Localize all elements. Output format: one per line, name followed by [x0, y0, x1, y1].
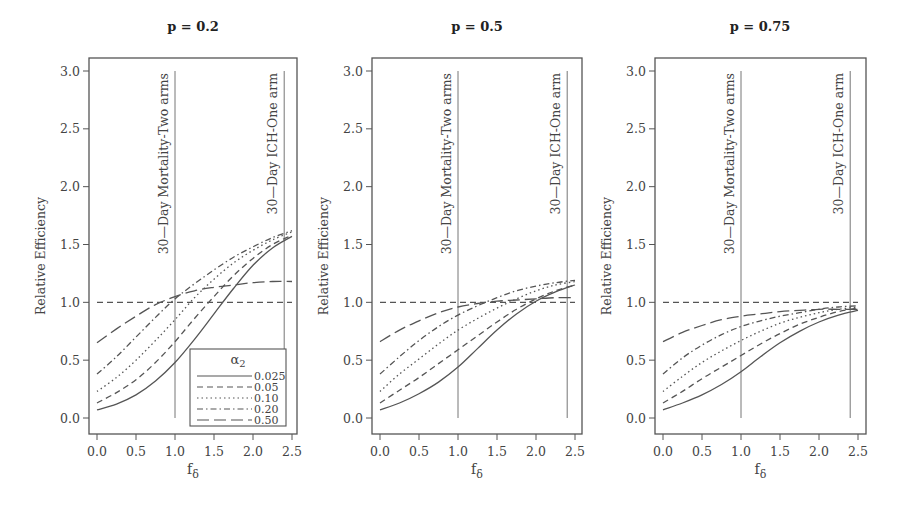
series-line-alpha-0.10: [663, 307, 858, 391]
y-tick-label: 0.0: [626, 411, 646, 426]
x-tick-label: 1.0: [731, 444, 751, 459]
y-tick-label: 1.5: [626, 237, 646, 252]
y-tick-label: 2.0: [343, 179, 363, 194]
ich-marker-label: 30—Day ICH-One arm: [548, 73, 563, 215]
series-line-alpha-0.05: [663, 308, 858, 403]
mortality-marker-label: 30—Day Mortality-Two arms: [439, 73, 454, 254]
mortality-marker-label: 30—Day Mortality-Two arms: [722, 73, 737, 254]
panel-1: 0.00.51.01.52.02.53.00.00.51.01.52.02.5f…: [316, 58, 585, 481]
series-line-alpha-0.20: [663, 306, 858, 374]
y-tick-label: 0.0: [60, 411, 80, 426]
y-tick-label: 1.0: [626, 295, 646, 310]
mortality-marker-label: 30—Day Mortality-Two arms: [156, 73, 171, 254]
y-tick-label: 2.5: [343, 121, 363, 136]
x-tick-label: 1.5: [770, 444, 790, 459]
x-tick-label: 0.0: [87, 444, 107, 459]
series-line-alpha-0.025: [663, 310, 858, 410]
x-axis-label: fδ: [471, 461, 483, 481]
x-tick-label: 0.5: [409, 444, 429, 459]
y-axis-label: Relative Efficiency: [599, 196, 614, 315]
y-tick-label: 2.5: [626, 121, 646, 136]
x-tick-label: 2.5: [848, 444, 868, 459]
x-tick-label: 1.5: [487, 444, 507, 459]
x-tick-label: 0.0: [653, 444, 673, 459]
panel-0: 0.00.51.01.52.02.53.00.00.51.01.52.02.5f…: [33, 58, 302, 481]
y-tick-label: 0.5: [343, 353, 363, 368]
x-tick-label: 0.5: [692, 444, 712, 459]
legend-entry-label: 0.50: [254, 414, 279, 427]
series-line-alpha-0.50: [380, 298, 575, 342]
y-tick-label: 2.0: [626, 179, 646, 194]
x-tick-label: 1.0: [165, 444, 185, 459]
ich-marker-label: 30—Day ICH-One arm: [831, 73, 846, 215]
x-axis-label: fδ: [755, 461, 767, 481]
y-tick-label: 1.5: [343, 237, 363, 252]
y-tick-label: 3.0: [60, 64, 80, 79]
plot-canvas: 0.00.51.01.52.02.53.00.00.51.01.52.02.5f…: [0, 0, 901, 510]
series-line-alpha-0.50: [97, 281, 292, 342]
y-tick-label: 1.0: [343, 295, 363, 310]
x-tick-label: 2.0: [809, 444, 829, 459]
y-tick-label: 0.5: [60, 353, 80, 368]
ich-marker-label: 30—Day ICH-One arm: [265, 73, 280, 215]
legend: α20.0250.050.100.200.50: [190, 349, 286, 427]
series-line-alpha-0.50: [663, 309, 858, 341]
y-tick-label: 1.5: [60, 237, 80, 252]
panel-2: 0.00.51.01.52.02.53.00.00.51.01.52.02.5f…: [599, 58, 868, 481]
y-tick-label: 3.0: [626, 64, 646, 79]
x-tick-label: 1.5: [204, 444, 224, 459]
x-tick-label: 0.5: [126, 444, 146, 459]
y-axis-label: Relative Efficiency: [316, 196, 331, 315]
y-tick-label: 1.0: [60, 295, 80, 310]
y-axis-label: Relative Efficiency: [33, 196, 48, 315]
x-tick-label: 2.0: [243, 444, 263, 459]
y-tick-label: 0.5: [626, 353, 646, 368]
y-tick-label: 2.5: [60, 121, 80, 136]
x-tick-label: 2.5: [565, 444, 585, 459]
y-tick-label: 2.0: [60, 179, 80, 194]
x-tick-label: 2.0: [526, 444, 546, 459]
x-tick-label: 2.5: [282, 444, 302, 459]
y-tick-label: 0.0: [343, 411, 363, 426]
series-line-alpha-0.20: [380, 280, 575, 374]
x-axis-label: fδ: [187, 461, 199, 481]
figure: p = 0.2 p = 0.5 p = 0.75 0.00.51.01.52.0…: [0, 0, 901, 510]
x-tick-label: 0.0: [370, 444, 390, 459]
x-tick-label: 1.0: [448, 444, 468, 459]
y-tick-label: 3.0: [343, 64, 363, 79]
